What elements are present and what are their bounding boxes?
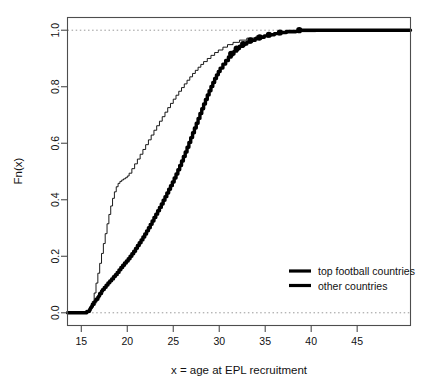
data-point-marker bbox=[247, 37, 253, 43]
x-tick-label: 45 bbox=[351, 335, 363, 347]
y-tick-label: 0.8 bbox=[50, 79, 62, 94]
y-tick-label: 0.4 bbox=[50, 192, 62, 207]
x-axis-tick-labels: 15202530354045 bbox=[75, 335, 363, 347]
ecdf-chart-figure: 15202530354045 0.00.20.40.60.81.0 x = ag… bbox=[0, 0, 428, 392]
x-axis-ticks bbox=[81, 326, 357, 333]
data-point-marker bbox=[266, 32, 272, 38]
x-tick-label: 20 bbox=[121, 335, 133, 347]
x-tick-label: 40 bbox=[305, 335, 317, 347]
data-point-marker bbox=[277, 29, 283, 35]
y-tick-label: 0.0 bbox=[50, 305, 62, 320]
y-axis-tick-labels: 0.00.20.40.60.81.0 bbox=[50, 23, 62, 320]
y-tick-label: 0.6 bbox=[50, 136, 62, 151]
legend: top football countriesother countries bbox=[289, 265, 415, 292]
data-point-marker bbox=[228, 51, 234, 57]
y-axis-title: Fn(x) bbox=[12, 157, 24, 184]
x-tick-label: 35 bbox=[259, 335, 271, 347]
y-axis-ticks bbox=[61, 30, 68, 313]
data-point-marker bbox=[234, 45, 240, 51]
x-axis-title: x = age at EPL recruitment bbox=[171, 364, 308, 376]
data-point-marker bbox=[257, 34, 263, 40]
x-tick-label: 15 bbox=[75, 335, 87, 347]
legend-label: top football countries bbox=[318, 265, 415, 277]
y-tick-label: 1.0 bbox=[50, 23, 62, 38]
x-tick-label: 30 bbox=[213, 335, 225, 347]
data-point-marker bbox=[240, 41, 246, 47]
legend-label: other countries bbox=[318, 280, 387, 292]
data-point-marker bbox=[296, 27, 302, 33]
plot-canvas: 15202530354045 0.00.20.40.60.81.0 x = ag… bbox=[0, 0, 428, 392]
y-tick-label: 0.2 bbox=[50, 249, 62, 264]
x-tick-label: 25 bbox=[167, 335, 179, 347]
